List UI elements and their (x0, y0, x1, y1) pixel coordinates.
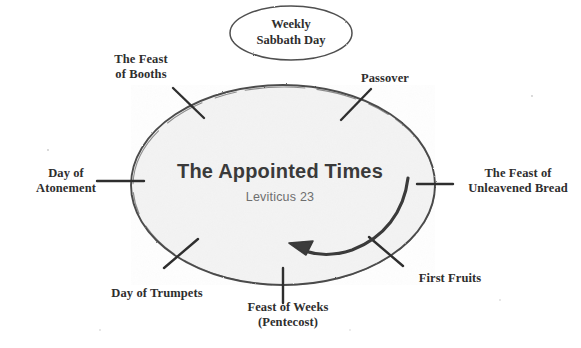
feast-label-first-fruits: First Fruits (395, 271, 505, 286)
feast-label-day-of-atonement: Day of Atonement (14, 166, 118, 196)
diagram-subtitle: Leviticus 23 (150, 190, 410, 204)
feast-label-passover: Passover (330, 71, 440, 86)
feast-label-booths: The Feast of Booths (82, 52, 200, 82)
feast-label-feast-of-weeks: Feast of Weeks (Pentecost) (218, 300, 358, 330)
weekly-sabbath-day-label: Weekly Sabbath Day (231, 17, 351, 48)
diagram-title: The Appointed Times (150, 160, 410, 183)
feast-label-day-of-trumpets: Day of Trumpets (93, 286, 221, 301)
feast-label-unleavened-bread: The Feast of Unleavened Bread (455, 166, 581, 196)
